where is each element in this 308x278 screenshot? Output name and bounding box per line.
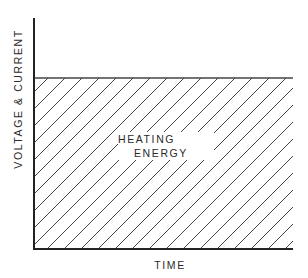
- y-axis-label: VOLTAGE & CURRENT: [12, 0, 28, 214]
- x-axis-label: TIME: [120, 259, 220, 271]
- region-label-line2: ENERGY: [118, 146, 214, 160]
- heating-energy-label: HEATING ENERGY: [118, 132, 214, 160]
- region-label-line1: HEATING: [118, 132, 214, 146]
- heating-energy-diagram: VOLTAGE & CURRENT TIME HEATING ENERGY: [0, 0, 308, 278]
- hatch-fill: [0, 78, 308, 249]
